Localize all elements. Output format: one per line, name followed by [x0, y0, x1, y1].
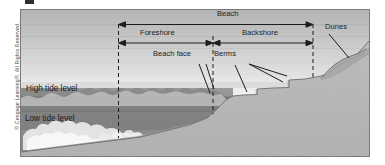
label-berms: Berms: [214, 49, 236, 58]
label-beach: Beach: [217, 9, 239, 18]
top-crop-mark: [25, 0, 34, 4]
label-high-tide-level: High tide level: [26, 84, 77, 93]
diagram-frame: [20, 9, 370, 157]
label-dunes: Dunes: [325, 22, 347, 31]
label-low-tide-level: Low tide level: [25, 114, 75, 123]
label-backshore: Backshore: [242, 28, 278, 37]
label-foreshore: Foreshore: [140, 28, 175, 37]
beach-profile-figure: © Cengage Learning®. All Rights Reserved…: [0, 0, 385, 165]
beach-cross-section-illustration: [21, 10, 369, 156]
label-beach-face: Beach face: [153, 49, 191, 58]
